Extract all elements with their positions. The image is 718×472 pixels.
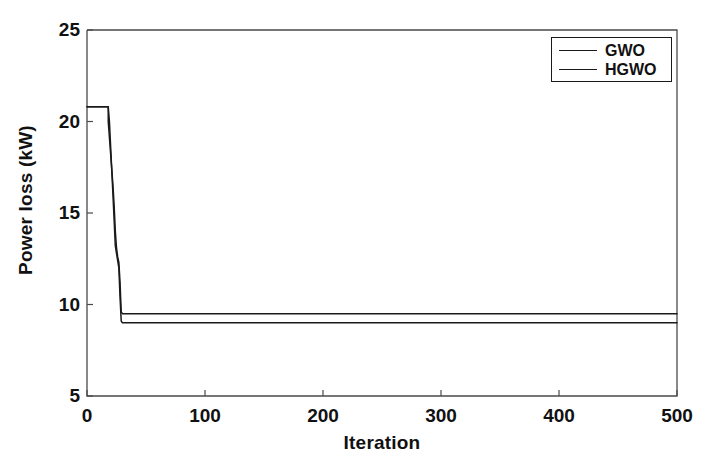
x-tick-label: 500 — [661, 405, 693, 427]
x-tick-label: 400 — [543, 405, 575, 427]
legend-line-swatch-gwo — [559, 50, 597, 51]
legend-item-gwo: GWO — [552, 41, 671, 60]
x-axis-label: Iteration — [344, 432, 421, 453]
series-line-hgwo — [87, 107, 677, 323]
y-axis-label: Power loss (kW) — [15, 125, 37, 275]
y-tick-label: 5 — [36, 385, 80, 407]
y-tick-label: 15 — [36, 202, 80, 224]
y-tick-label: 10 — [36, 294, 80, 316]
x-tick-label: 100 — [189, 405, 221, 427]
series-line-gwo — [87, 107, 677, 314]
y-tick-label: 20 — [36, 111, 80, 133]
legend-label-gwo: GWO — [605, 43, 645, 59]
y-axis-label-container: Power loss (kW) — [6, 0, 46, 400]
y-tick-label: 25 — [36, 19, 80, 41]
chart-figure: Power loss (kW) Iteration 510152025 0100… — [0, 0, 718, 472]
x-tick-label: 0 — [82, 405, 93, 427]
legend-item-hgwo: HGWO — [552, 60, 671, 79]
x-axis-label-container: Iteration — [87, 432, 677, 454]
x-tick-label: 200 — [307, 405, 339, 427]
legend-label-hgwo: HGWO — [605, 62, 657, 78]
chart-legend: GWO HGWO — [551, 37, 672, 82]
axes-frame — [87, 30, 677, 396]
x-tick-label: 300 — [425, 405, 457, 427]
legend-line-swatch-hgwo — [559, 69, 597, 70]
